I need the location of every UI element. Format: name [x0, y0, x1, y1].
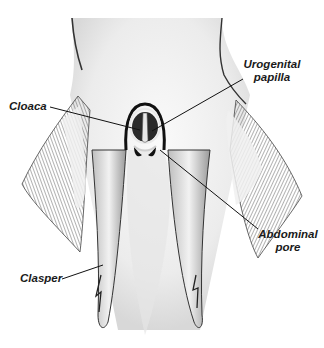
label-abdominal-pore: Abdominal pore — [257, 228, 319, 254]
urogenital-papilla — [142, 113, 148, 142]
diagram-illustration — [0, 0, 324, 348]
label-clasper: Clasper — [20, 272, 62, 285]
label-cloaca: Cloaca — [9, 100, 47, 113]
label-abdominal-line1: Abdominal — [257, 228, 319, 241]
label-urogenital-papilla: Urogenital papilla — [242, 58, 302, 84]
shark-pelvic-diagram: Cloaca Urogenital papilla Abdominal pore… — [0, 0, 324, 348]
clasper-leader-line — [62, 265, 103, 279]
label-urogenital-line1: Urogenital — [242, 58, 302, 71]
label-abdominal-line2: pore — [257, 241, 319, 254]
label-urogenital-line2: papilla — [242, 71, 302, 84]
